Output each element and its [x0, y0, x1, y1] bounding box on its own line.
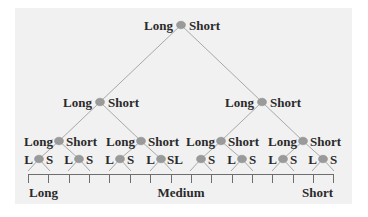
node-label-right: Short [108, 95, 140, 110]
node-label-left: L [64, 152, 73, 167]
node-label-left: L [146, 152, 155, 167]
node-label-right: Short [270, 95, 302, 110]
node-circle [55, 137, 64, 145]
node-circle [197, 155, 206, 163]
node-circle [299, 137, 308, 145]
node-circle [258, 98, 267, 106]
node-label-right: Short [148, 134, 180, 149]
node-label-left: L [268, 152, 277, 167]
node-circle [319, 155, 328, 163]
node-label-right: S [127, 152, 134, 167]
axis [28, 174, 334, 183]
node-label-right: S [86, 152, 93, 167]
node-label-left: Long [144, 18, 173, 33]
node-circle [279, 155, 288, 163]
node-label-right: Short [66, 134, 98, 149]
axis-label-short: Short [302, 185, 334, 200]
node-circle [137, 137, 146, 145]
node-label-right: S [208, 152, 215, 167]
node-label-right: S [330, 152, 337, 167]
node-label-right: Short [189, 18, 221, 33]
node-label-left: Long [225, 95, 254, 110]
node-label-right: S [290, 152, 297, 167]
node-label-left: Long [268, 134, 297, 149]
node-circle [177, 21, 186, 29]
node-label-left: L [105, 152, 114, 167]
node-label-left: L [24, 152, 33, 167]
node-label-right: Short [228, 134, 260, 149]
node-label-left: L [308, 152, 317, 167]
node-circle [116, 155, 125, 163]
axis-label-medium: Medium [158, 185, 205, 200]
node-label-left: Long [63, 95, 92, 110]
node-label-left: Long [106, 134, 135, 149]
node-circle [217, 137, 226, 145]
node-circle [35, 155, 44, 163]
tree-diagram: Long Short Long Short Long Short Long Sh… [0, 0, 368, 217]
node-label-left: Long [186, 134, 215, 149]
node-circle [75, 155, 84, 163]
node-circle [238, 155, 247, 163]
node-label-left: Long [24, 134, 53, 149]
axis-label-long: Long [29, 185, 58, 200]
node-circle [157, 155, 166, 163]
node-circle [96, 98, 105, 106]
node-label-right: Short [310, 134, 342, 149]
node-label-right: S [249, 152, 256, 167]
node-label-right: SL [167, 152, 183, 167]
node-label-left: L [227, 152, 236, 167]
node-label-right: S [46, 152, 53, 167]
